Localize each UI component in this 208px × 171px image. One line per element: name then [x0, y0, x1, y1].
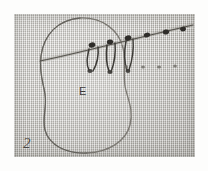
- stitch-label-e: E: [79, 86, 86, 97]
- figure-number: 2: [23, 136, 31, 151]
- embroidery-overlay: [14, 14, 195, 157]
- needle-hole-dots: [124, 65, 177, 69]
- figure-root: E 2 embroidered linen sampler showing a …: [0, 0, 208, 171]
- photograph-plate: E 2: [14, 14, 195, 157]
